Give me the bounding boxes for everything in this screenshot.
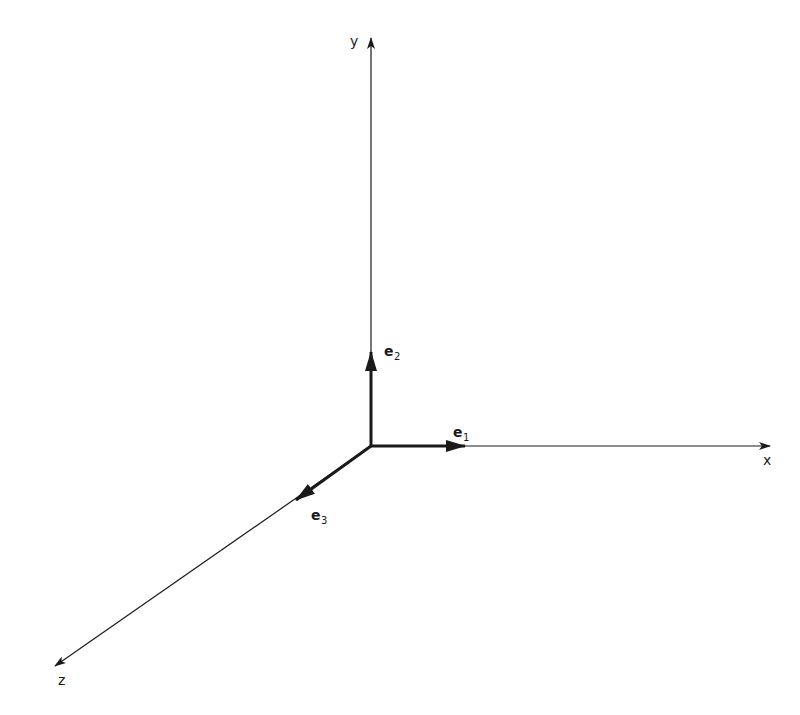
svg-text:e: e [384, 343, 394, 359]
x-axis-label: x [763, 452, 771, 468]
e3-vector [296, 446, 371, 500]
svg-text:e: e [453, 424, 463, 440]
e1-label: e 1 [453, 424, 469, 443]
coordinate-diagram: y x z e 1 e 2 e 3 [0, 0, 800, 715]
svg-text:2: 2 [394, 351, 400, 362]
svg-text:3: 3 [321, 515, 327, 526]
y-axis-label: y [350, 33, 358, 49]
svg-text:1: 1 [463, 432, 469, 443]
svg-text:e: e [311, 507, 321, 523]
z-axis-label: z [58, 672, 65, 688]
e2-label: e 2 [384, 343, 400, 362]
e3-label: e 3 [311, 507, 327, 526]
